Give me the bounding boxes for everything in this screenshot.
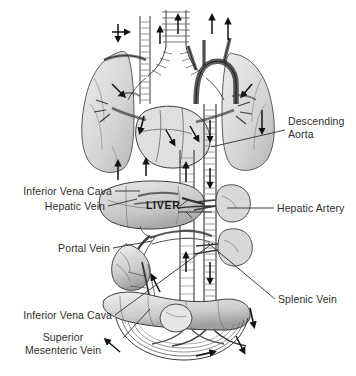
organ-label-liver: LIVER	[146, 199, 180, 211]
label-inferior-vena-cava-upper: Inferior Vena Cava	[0, 185, 112, 198]
anatomy-figure: LIVER Descending Aorta Inferior Vena Cav…	[0, 0, 356, 376]
splenic-vein-shape	[150, 231, 212, 244]
duodenum-shape	[112, 244, 151, 290]
trachea-shape	[128, 10, 224, 100]
label-hepatic-artery: Hepatic Artery	[277, 202, 344, 215]
label-splenic-vein: Splenic Vein	[278, 293, 337, 306]
left-kidney-shape	[218, 229, 252, 266]
label-hepatic-vein: Hepatic Vein	[0, 200, 105, 213]
label-inferior-vena-cava-lower: Inferior Vena Cava	[0, 309, 112, 322]
label-superior-mesenteric-vein: Superior Mesenteric Vein	[6, 331, 120, 356]
intestine-shape	[103, 292, 250, 360]
left-lung-shape	[82, 51, 134, 172]
label-portal-vein: Portal Vein	[0, 242, 110, 255]
right-kidney-shape	[216, 185, 250, 222]
heart-shape	[136, 106, 210, 168]
label-descending-aorta: Descending Aorta	[288, 115, 344, 140]
